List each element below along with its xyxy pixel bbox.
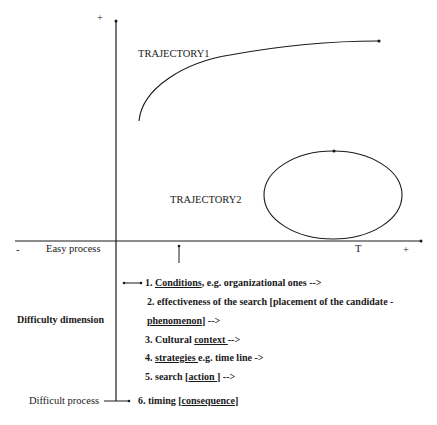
trajectory2-ellipse <box>264 151 402 239</box>
list-item-3: 3. Cultural context --> <box>145 334 240 346</box>
difficulty-dimension-label: Difficulty dimension <box>17 314 104 326</box>
list-item-1: 1. Conditions, e.g. organizational ones … <box>145 277 322 289</box>
list-item-6: 6. timing [consequence] <box>138 395 238 407</box>
list-item-6-suffix: ] <box>235 395 238 406</box>
conditions-pointer-arrowhead <box>178 245 181 248</box>
list-item-1-key: Conditions <box>155 277 202 288</box>
difficult-process-label: Difficult process <box>29 395 99 407</box>
x-axis-plus-label: + <box>403 244 409 256</box>
list-item-2: 2. effectiveness of the search [placemen… <box>147 296 393 308</box>
list-item-1-prefix: 1. <box>145 277 155 288</box>
difficult-process-arrowhead <box>128 400 131 403</box>
list-item-6-key: consequence <box>182 395 235 406</box>
trajectory1-label: TRAJECTORY1 <box>138 48 210 60</box>
list-item-2-continued: phenomenon] --> <box>147 315 220 327</box>
trajectory2-marker <box>332 149 335 152</box>
list-item-3-prefix: 3. Cultural <box>145 334 194 345</box>
list-item-5-suffix: ] --> <box>217 371 235 382</box>
list-item-3-suffix: --> <box>228 334 240 345</box>
list-item-2-key: phenomenon <box>147 315 202 326</box>
y-axis-plus-label: + <box>97 12 103 24</box>
double-arrow-left-head <box>123 282 126 285</box>
vertical-axis-arrowhead <box>115 20 118 23</box>
list-item-3-key: context <box>194 334 228 345</box>
x-axis-minus-label: - <box>16 244 20 256</box>
trajectory1-endpoint <box>377 39 380 42</box>
easy-process-label: Easy process <box>46 243 101 255</box>
list-item-1-suffix: , e.g. organizational ones --> <box>202 277 322 288</box>
trajectory2-label: TRAJECTORY2 <box>170 194 242 206</box>
list-item-5-prefix: 5. search [ <box>145 371 188 382</box>
horizontal-axis-arrowhead <box>420 240 423 243</box>
double-arrow-right-head <box>140 282 143 285</box>
list-item-4-suffix: e.g. time line -> <box>198 352 263 363</box>
list-item-2-text: 2. effectiveness of the search [placemen… <box>147 296 393 307</box>
list-item-4-prefix: 4. <box>145 352 155 363</box>
list-item-6-prefix: 6. timing [ <box>138 395 182 406</box>
x-axis-t-label: T <box>355 243 361 255</box>
list-item-4: 4. strategies e.g. time line -> <box>145 352 263 364</box>
list-item-2-suffix: ] --> <box>202 315 220 326</box>
list-item-4-key: strategies <box>155 352 198 363</box>
list-item-5: 5. search [action ] --> <box>145 371 235 383</box>
list-item-5-key: action <box>188 371 217 382</box>
